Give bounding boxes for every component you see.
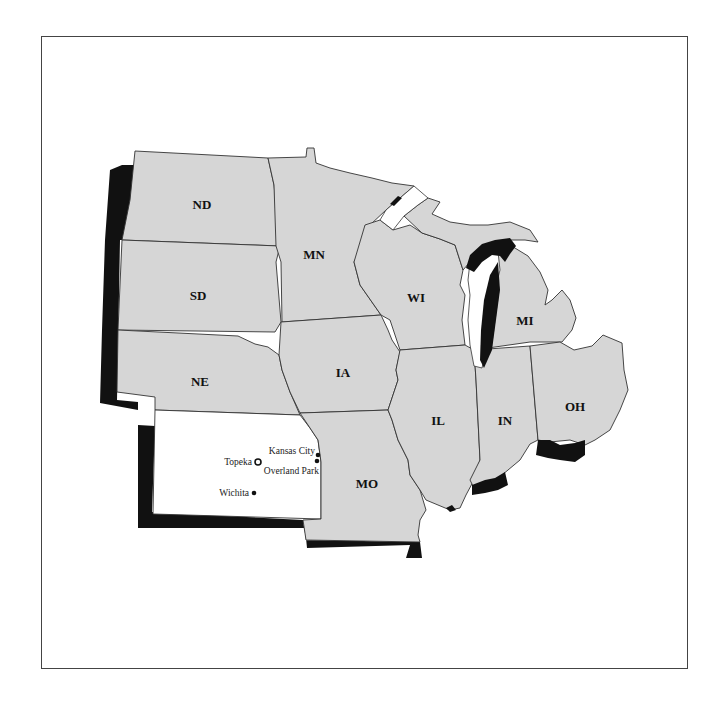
city-dot-icon [252,491,257,496]
label-nd: ND [193,197,212,212]
city-label-wichita: Wichita [219,488,249,498]
state-ne[interactable] [117,330,300,415]
label-oh: OH [565,399,585,414]
label-sd: SD [190,288,207,303]
city-dot-icon [315,459,320,464]
midwest-map: ND SD NE MN WI IA MI IL IN OH MO Kansas … [0,0,723,705]
shaded-area-oh [536,440,585,462]
state-oh[interactable] [530,335,628,445]
label-il: IL [431,413,445,428]
label-mi: MI [516,313,533,328]
label-ne: NE [191,374,209,389]
state-ia[interactable] [279,315,400,413]
city-label-topeka: Topeka [224,457,253,467]
label-mo: MO [356,476,378,491]
capital-star-icon [255,459,261,465]
city-label-kansas-city: Kansas City [269,446,315,456]
city-label-overland-park: Overland Park [264,466,319,476]
label-mn: MN [303,247,325,262]
label-ia: IA [336,365,351,380]
label-wi: WI [407,290,425,305]
city-dot-icon [316,453,321,458]
state-sd[interactable] [118,240,281,332]
label-in: IN [498,413,513,428]
